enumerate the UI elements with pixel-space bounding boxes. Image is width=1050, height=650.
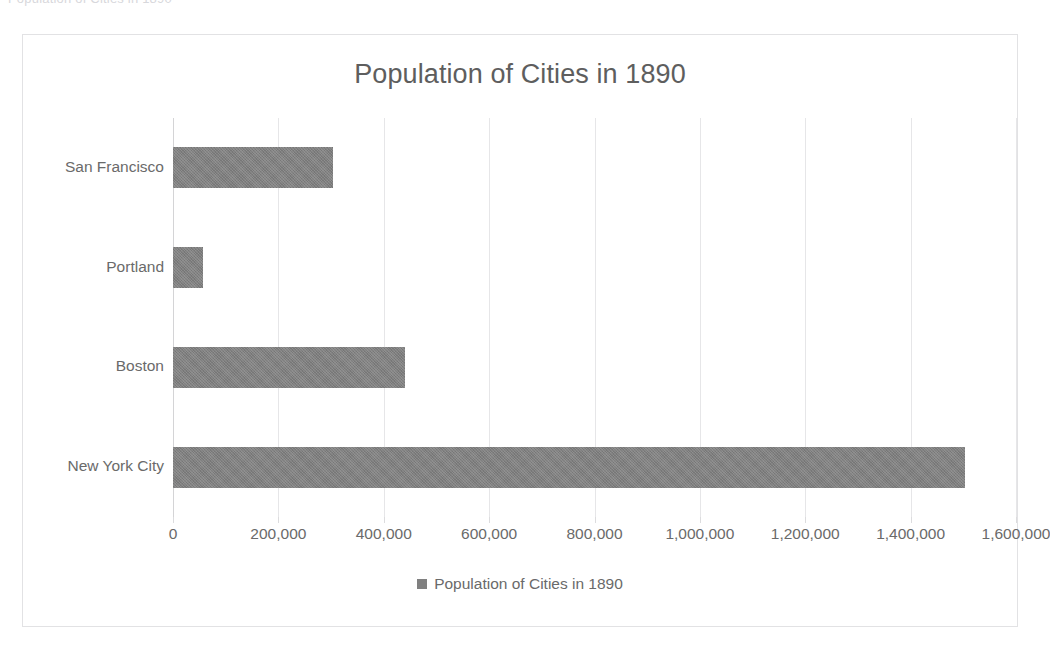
bar-row[interactable] bbox=[173, 347, 1016, 388]
bar-row[interactable] bbox=[173, 247, 1016, 288]
plot-area bbox=[173, 118, 1016, 517]
x-tick-label: 0 bbox=[169, 525, 178, 543]
legend-label: Population of Cities in 1890 bbox=[434, 575, 623, 593]
x-axis-tick bbox=[384, 517, 385, 523]
chart-title: Population of Cities in 1890 bbox=[23, 59, 1017, 90]
x-axis-tick-labels: 0200,000400,000600,000800,0001,000,0001,… bbox=[173, 525, 1016, 553]
y-axis-label-san-francisco: San Francisco bbox=[23, 158, 173, 176]
bar-row[interactable] bbox=[173, 447, 1016, 488]
x-axis-tick bbox=[1016, 517, 1017, 523]
bar-row[interactable] bbox=[173, 147, 1016, 188]
bar-boston[interactable] bbox=[173, 347, 405, 388]
x-tick-label: 400,000 bbox=[356, 525, 412, 543]
top-text-fragment: Population of Cities in 1890 bbox=[0, 0, 1038, 10]
legend-swatch-icon bbox=[417, 579, 427, 589]
bar-new-york-city[interactable] bbox=[173, 447, 965, 488]
x-axis-tick bbox=[595, 517, 596, 523]
y-axis-label-boston: Boston bbox=[23, 357, 173, 375]
gridline bbox=[1016, 118, 1017, 517]
x-tick-label: 1,400,000 bbox=[876, 525, 945, 543]
bar-portland[interactable] bbox=[173, 247, 203, 288]
y-axis-label-portland: Portland bbox=[23, 258, 173, 276]
bar-san-francisco[interactable] bbox=[173, 147, 333, 188]
x-tick-label: 600,000 bbox=[461, 525, 517, 543]
chart-container: Population of Cities in 1890 San Francis… bbox=[22, 34, 1018, 627]
x-axis-tick bbox=[278, 517, 279, 523]
x-axis-tick bbox=[173, 517, 174, 523]
chart-legend: Population of Cities in 1890 bbox=[23, 575, 1017, 593]
y-axis-category-labels: San FranciscoPortlandBostonNew York City bbox=[23, 118, 173, 517]
x-tick-label: 800,000 bbox=[566, 525, 622, 543]
x-axis-tick bbox=[911, 517, 912, 523]
y-axis-label-new-york-city: New York City bbox=[23, 457, 173, 475]
x-axis-tick bbox=[489, 517, 490, 523]
x-tick-label: 200,000 bbox=[250, 525, 306, 543]
x-tick-label: 1,600,000 bbox=[982, 525, 1050, 543]
x-axis-tick bbox=[700, 517, 701, 523]
x-axis-tick bbox=[805, 517, 806, 523]
x-tick-label: 1,200,000 bbox=[771, 525, 840, 543]
x-tick-label: 1,000,000 bbox=[665, 525, 734, 543]
